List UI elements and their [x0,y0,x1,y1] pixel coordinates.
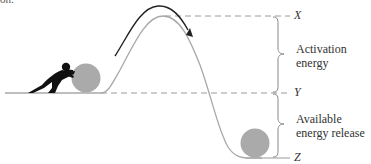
energy-curve [101,16,262,158]
person-pushing-icon [28,63,75,93]
reaction-path-arrow [115,6,188,56]
available-energy-brace [273,94,284,157]
activation-energy-label-line1: Activation [296,43,347,56]
boulder-bottom-right [241,129,270,158]
boulder-top-left [72,64,101,93]
available-energy-label-line1: Available [296,113,342,126]
label-x: X [294,9,301,22]
activation-energy-label-line2: energy [296,57,328,70]
activation-brace [273,17,284,92]
label-z: Z [294,151,301,164]
available-energy-label-line2: energy release [296,127,365,140]
label-y: Y [294,86,301,99]
